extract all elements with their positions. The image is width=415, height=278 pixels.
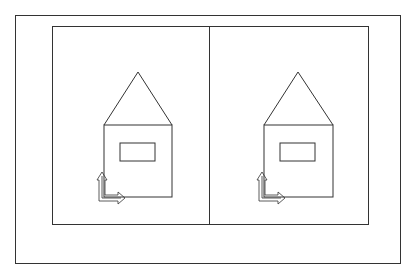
house-roof	[104, 72, 172, 125]
house-roof	[264, 72, 333, 125]
paper-border	[16, 16, 401, 264]
house-window	[280, 143, 315, 161]
viewport-left[interactable]	[97, 72, 172, 204]
house-window	[120, 143, 155, 161]
drawing-canvas	[0, 0, 415, 278]
viewport-right[interactable]	[257, 72, 333, 204]
ucs-icon	[97, 172, 125, 204]
ucs-icon	[257, 172, 285, 204]
